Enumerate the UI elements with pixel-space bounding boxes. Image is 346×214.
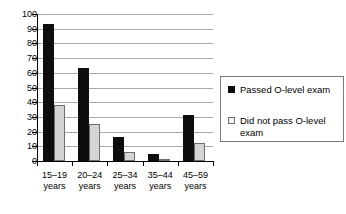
gridline — [37, 58, 213, 59]
gridline — [37, 29, 213, 30]
legend-swatch-not-passed-icon — [228, 117, 235, 124]
x-tick-mark — [72, 161, 73, 166]
bar — [78, 68, 89, 161]
bar-chart: 1009080706050403020100 15–19years20–24ye… — [0, 0, 346, 214]
bar — [89, 124, 100, 161]
x-tick-mark — [178, 161, 179, 166]
gridline — [37, 43, 213, 44]
bar — [148, 154, 159, 161]
bar — [54, 105, 65, 161]
legend-entry-not-passed: Did not pass O-level exam — [228, 115, 340, 139]
x-tick-label: 45–59years — [178, 170, 213, 192]
x-tick-mark — [37, 161, 38, 166]
legend-swatch-passed-icon — [228, 86, 235, 93]
legend-label-passed: Passed O-level exam — [240, 84, 340, 96]
bar — [113, 137, 124, 161]
x-tick-label: 35–44years — [143, 170, 178, 192]
bar — [124, 152, 135, 161]
x-tick-mark — [107, 161, 108, 166]
bar — [43, 24, 54, 161]
x-tick-label: 25–34years — [107, 170, 142, 192]
gridline — [37, 102, 213, 103]
bar — [194, 143, 205, 161]
gridline — [37, 73, 213, 74]
y-axis-line — [37, 14, 38, 162]
y-axis-ticks: 1009080706050403020100 — [0, 14, 37, 161]
x-tick-mark — [213, 161, 214, 166]
x-axis-line — [37, 161, 214, 162]
legend-label-not-passed: Did not pass O-level exam — [240, 115, 340, 139]
gridline — [37, 88, 213, 89]
legend-entry-passed: Passed O-level exam — [228, 84, 340, 96]
gridline — [37, 14, 213, 15]
bar — [183, 115, 194, 161]
x-tick-label: 20–24years — [72, 170, 107, 192]
x-tick-label: 15–19years — [37, 170, 72, 192]
plot-area — [37, 14, 213, 161]
chart-legend: Passed O-level exam Did not pass O-level… — [220, 76, 344, 142]
x-tick-mark — [143, 161, 144, 166]
